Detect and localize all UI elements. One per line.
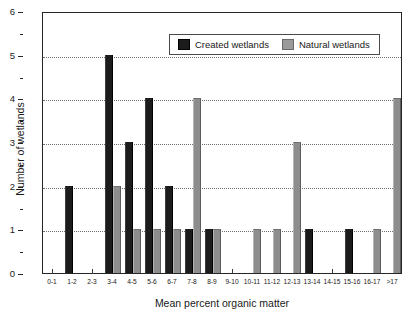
bar-natural-wetlands->17: [393, 98, 401, 273]
x-tick-mark: [52, 269, 53, 274]
y-tick-mark-minor: [20, 252, 24, 253]
bar-created-wetlands-15-16: [345, 229, 353, 273]
x-tick-label: 14-15: [324, 278, 341, 285]
y-tick-mark: [18, 274, 23, 275]
x-tick-label: 16-17: [364, 278, 381, 285]
x-tick-mark: [332, 269, 333, 274]
x-tick-label: 7-8: [187, 278, 197, 285]
y-tick-label: 5: [10, 51, 15, 61]
chart-legend: Created wetlands Natural wetlands: [169, 34, 380, 55]
bar-created-wetlands-7-8: [185, 229, 193, 273]
x-tick-label: 9-10: [225, 278, 238, 285]
bar-created-wetlands-3-4: [105, 55, 113, 273]
legend-item-created: Created wetlands: [178, 39, 269, 50]
y-tick-label: 6: [10, 7, 15, 17]
x-tick-label: 5-6: [147, 278, 157, 285]
bar-created-wetlands-6-7: [165, 186, 173, 273]
bar-natural-wetlands-6-7: [173, 229, 181, 273]
bar-chart: 0123456 Number of wetlands Created wetla…: [0, 0, 418, 319]
x-tick-label: 6-7: [167, 278, 177, 285]
legend-label-natural: Natural wetlands: [299, 40, 370, 50]
natural-wetlands-swatch-icon: [282, 39, 294, 50]
y-tick-mark: [18, 230, 23, 231]
legend-label-created: Created wetlands: [195, 40, 269, 50]
x-tick-mark: [92, 269, 93, 274]
legend-item-natural: Natural wetlands: [282, 39, 370, 50]
bar-created-wetlands-13-14: [305, 229, 313, 273]
y-tick-mark: [18, 56, 23, 57]
x-tick-label: 10-11: [244, 278, 260, 285]
bar-natural-wetlands-8-9: [213, 229, 221, 273]
bar-natural-wetlands-12-13: [293, 142, 301, 273]
bar-natural-wetlands-4-5: [133, 229, 141, 273]
bar-created-wetlands-5-6: [145, 98, 153, 273]
bar-natural-wetlands-10-11: [253, 229, 261, 273]
x-tick-label: 3-4: [107, 278, 117, 285]
x-tick-label: 1-2: [67, 278, 77, 285]
x-tick-label: 15-16: [344, 278, 361, 285]
gridline: [43, 100, 401, 101]
y-tick-mark: [18, 12, 23, 13]
gridline: [43, 57, 401, 58]
x-tick-label: 0-1: [47, 278, 57, 285]
x-tick-label: 2-3: [87, 278, 97, 285]
y-tick-label: 0: [10, 269, 15, 279]
plot-frame: Created wetlands Natural wetlands: [42, 12, 402, 274]
x-tick-label: 12-13: [284, 278, 301, 285]
x-tick-label: 13-14: [304, 278, 321, 285]
gridline: [43, 144, 401, 145]
bar-created-wetlands-1-2: [65, 186, 73, 273]
x-tick-label: 11-12: [264, 278, 280, 285]
gridline: [43, 188, 401, 189]
bar-created-wetlands-8-9: [205, 229, 213, 273]
bar-natural-wetlands-16-17: [373, 229, 381, 273]
x-axis-title: Mean percent organic matter: [42, 297, 402, 309]
bar-natural-wetlands-3-4: [113, 186, 121, 273]
x-tick-label: 8-9: [207, 278, 217, 285]
bar-natural-wetlands-5-6: [153, 229, 161, 273]
y-axis-title: Number of wetlands: [14, 74, 26, 224]
x-tick-label: 4-5: [127, 278, 137, 285]
y-tick-mark-minor: [20, 34, 24, 35]
x-tick-mark: [232, 269, 233, 274]
x-tick-label: >17: [386, 278, 397, 285]
x-axis: 0-11-22-33-44-55-66-77-88-99-1010-1111-1…: [42, 274, 402, 296]
bar-natural-wetlands-11-12: [273, 229, 281, 273]
bar-natural-wetlands-7-8: [193, 98, 201, 273]
bar-created-wetlands-4-5: [125, 142, 133, 273]
y-tick-label: 1: [10, 226, 15, 236]
created-wetlands-swatch-icon: [178, 39, 190, 50]
